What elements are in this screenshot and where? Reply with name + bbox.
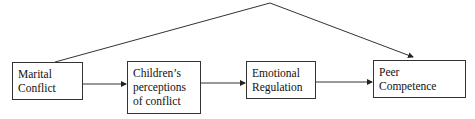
node-childrens-perceptions: Children’s perceptions of conflict (127, 61, 201, 114)
node-label-line3: of conflict (133, 94, 195, 108)
node-label-line2: Competence (379, 79, 460, 93)
node-label-line1: Peer (379, 65, 460, 79)
node-label-line2: Regulation (252, 80, 310, 94)
node-label-line1: Marital (18, 67, 77, 81)
node-marital-conflict: Marital Conflict (12, 62, 83, 100)
node-label-line2: Conflict (18, 81, 77, 95)
edge-marital-to-peer-direct (55, 3, 413, 62)
node-label-line1: Children’s (133, 66, 195, 80)
node-label-line1: Emotional (252, 66, 310, 80)
node-peer-competence: Peer Competence (373, 60, 466, 98)
node-label-line2: perceptions (133, 80, 195, 94)
node-emotional-regulation: Emotional Regulation (246, 61, 316, 99)
